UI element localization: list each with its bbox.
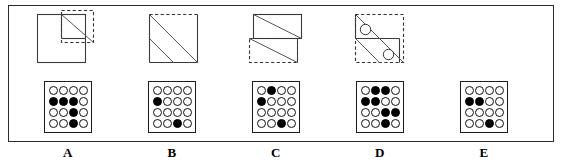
dot [391, 119, 400, 128]
dot-row [152, 85, 192, 96]
dot [465, 97, 474, 106]
shape-d-drawing [343, 8, 417, 72]
dot [183, 108, 192, 117]
option-panel-e[interactable]: E [434, 5, 534, 163]
shape-c-drawing [239, 8, 313, 72]
dot-grid-b-box [148, 81, 196, 133]
dot [257, 108, 266, 117]
answer-options-figure: A B [0, 0, 566, 165]
dot [277, 119, 286, 128]
dot-row [152, 118, 192, 129]
dot [173, 97, 182, 106]
dot-grid-d-box [356, 81, 404, 133]
dot [475, 97, 484, 106]
option-label-b: B [122, 145, 222, 161]
dot [79, 86, 88, 95]
dot [69, 86, 78, 95]
dot [69, 108, 78, 117]
dot [391, 108, 400, 117]
dot [287, 108, 296, 117]
dot-row [152, 96, 192, 107]
dot [153, 97, 162, 106]
dot [465, 119, 474, 128]
dot-row [48, 85, 88, 96]
dot [183, 97, 192, 106]
dot [49, 86, 58, 95]
shape-b-drawing [135, 8, 209, 72]
dot-row [48, 118, 88, 129]
dot [381, 97, 390, 106]
dot [153, 108, 162, 117]
dot-row [256, 85, 296, 96]
dot [267, 86, 276, 95]
dot [495, 108, 504, 117]
dot [59, 108, 68, 117]
dot [465, 108, 474, 117]
dot-row [360, 118, 400, 129]
dot-row [152, 107, 192, 118]
dot [287, 119, 296, 128]
dot-grid-c-box [252, 81, 300, 133]
option-panel-c[interactable]: C [226, 5, 326, 163]
dot-row [256, 118, 296, 129]
dot-row [360, 107, 400, 118]
option-label-a: A [18, 145, 118, 161]
dot [173, 119, 182, 128]
dot [79, 97, 88, 106]
dot [59, 119, 68, 128]
dot [173, 86, 182, 95]
dot [267, 119, 276, 128]
dot [153, 119, 162, 128]
dot [69, 97, 78, 106]
dot [183, 86, 192, 95]
dot [277, 108, 286, 117]
dot [361, 97, 370, 106]
dot [495, 119, 504, 128]
dot [163, 108, 172, 117]
dot-grid-b[interactable] [148, 81, 196, 133]
dot [163, 119, 172, 128]
dot [267, 97, 276, 106]
dot [183, 119, 192, 128]
dot [465, 86, 474, 95]
dot [495, 97, 504, 106]
dot-row [360, 96, 400, 107]
dot [287, 97, 296, 106]
dot [361, 86, 370, 95]
dot [267, 108, 276, 117]
shape-c [226, 8, 326, 76]
dot [475, 108, 484, 117]
option-panel-a[interactable]: A [18, 5, 118, 163]
shape-b [122, 8, 222, 76]
dot [49, 119, 58, 128]
dot [69, 119, 78, 128]
dot [287, 86, 296, 95]
dot-grid-e-box [460, 81, 508, 133]
dot [257, 86, 266, 95]
dot [277, 86, 286, 95]
dot [59, 97, 68, 106]
dot-row [256, 96, 296, 107]
dot-grid-e[interactable] [460, 81, 508, 133]
dot [381, 108, 390, 117]
dot [277, 97, 286, 106]
dot [381, 119, 390, 128]
dot [49, 108, 58, 117]
dot [371, 119, 380, 128]
option-panel-d[interactable]: D [330, 5, 430, 163]
shape-a [18, 8, 118, 76]
dot [163, 86, 172, 95]
dot [371, 97, 380, 106]
dot [391, 97, 400, 106]
dot [485, 119, 494, 128]
dot-row [464, 107, 504, 118]
dot-grid-a[interactable] [44, 81, 92, 133]
dot-grid-c[interactable] [252, 81, 300, 133]
option-panel-b[interactable]: B [122, 5, 222, 163]
dot-grid-a-box [44, 81, 92, 133]
dot-row [464, 118, 504, 129]
dot [391, 86, 400, 95]
dot [257, 97, 266, 106]
shape-a-drawing [31, 8, 105, 72]
dot-grid-d[interactable] [356, 81, 404, 133]
